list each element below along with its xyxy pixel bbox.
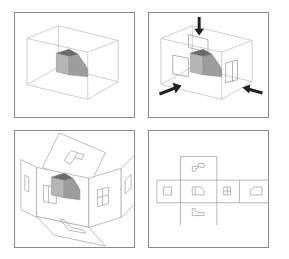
arrow-head-left-icon — [242, 85, 250, 94]
right-view — [224, 187, 231, 195]
unfolding-diagram — [15, 131, 134, 247]
panel-object-in-box — [14, 12, 135, 118]
projection-diagram — [149, 13, 268, 117]
top-projection-outline — [188, 35, 208, 53]
arrow-head-down-icon — [194, 29, 204, 36]
solid-side-face — [203, 54, 222, 77]
box-edge — [161, 26, 192, 39]
front-view — [192, 187, 204, 195]
box-edge — [88, 82, 118, 100]
top-view — [192, 163, 204, 171]
left-view — [164, 187, 172, 195]
side-projection-outline — [226, 60, 238, 83]
multiview-diagram — [149, 131, 268, 247]
solid-side-face — [69, 54, 88, 77]
box-edge — [222, 40, 252, 52]
rear-plane — [121, 153, 134, 218]
box-edge — [161, 67, 192, 85]
solid-front-face — [190, 53, 203, 75]
right-plane — [89, 168, 121, 227]
side-view-arrow — [242, 85, 263, 95]
front-view-shape — [192, 187, 204, 195]
panel-unfolding-planes — [14, 130, 135, 248]
arrow-shaft — [198, 17, 201, 31]
right-plane-face — [89, 168, 121, 227]
panel-projection-directions — [148, 12, 269, 118]
rear-plane-face — [121, 153, 134, 218]
glass-box-diagram — [15, 13, 134, 117]
box-edge — [88, 40, 118, 52]
solid-object — [56, 49, 87, 76]
top-view-arrow — [194, 17, 204, 36]
bottom-view — [192, 209, 204, 216]
top-view-shape — [192, 163, 204, 171]
bottom-view-shape — [192, 209, 204, 216]
box-edge — [27, 26, 58, 39]
front-view-arrow — [159, 83, 182, 96]
solid-object — [190, 49, 221, 76]
rear-view — [250, 187, 262, 195]
rear-view-shape — [250, 187, 262, 195]
layout-lines — [157, 157, 268, 226]
arrow-shaft — [159, 87, 176, 96]
left-plane — [21, 160, 37, 218]
box-edge — [27, 67, 58, 85]
panel-multiview-layout — [148, 130, 269, 248]
left-view-shape — [164, 187, 172, 195]
solid-front-face — [51, 177, 64, 198]
solid-front-face — [56, 53, 69, 75]
